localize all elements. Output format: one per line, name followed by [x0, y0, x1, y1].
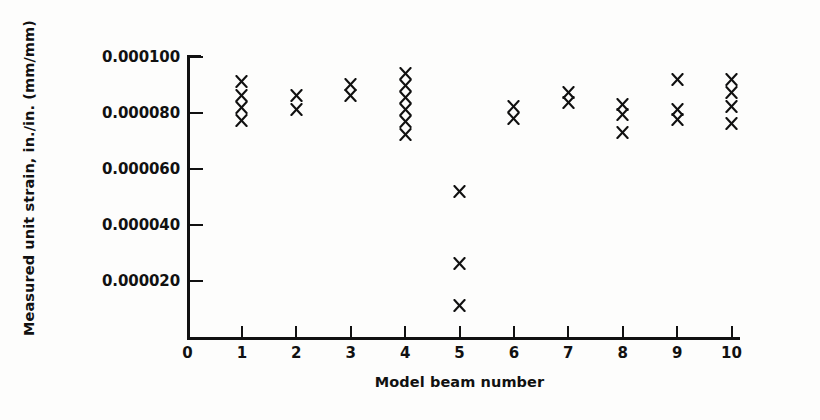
data-point-x-marker — [344, 89, 357, 102]
plot-area: 0.0000200.0000400.0000600.0000800.000100… — [0, 0, 820, 420]
data-point-x-marker — [671, 103, 684, 116]
y-tick — [190, 280, 203, 282]
x-tick — [622, 326, 624, 338]
data-point-x-marker — [616, 108, 629, 121]
data-point-x-marker — [671, 73, 684, 86]
x-tick — [459, 326, 461, 338]
data-point-x-marker — [344, 78, 357, 91]
data-point-x-marker — [725, 117, 738, 130]
y-tick — [190, 56, 203, 58]
x-tick-label: 1 — [222, 344, 262, 362]
x-tick-label: 4 — [385, 344, 425, 362]
data-point-x-marker — [453, 299, 466, 312]
x-tick — [513, 326, 515, 338]
y-tick-label: 0.000040 — [58, 216, 180, 234]
data-point-x-marker — [399, 67, 412, 80]
data-point-x-marker — [616, 126, 629, 139]
x-axis-title: Model beam number — [187, 374, 732, 390]
x-tick-label: 8 — [603, 344, 643, 362]
data-point-x-marker — [507, 100, 520, 113]
y-tick-label-text: 0.000080 — [60, 104, 180, 122]
data-point-x-marker — [399, 91, 412, 104]
data-point-x-marker — [453, 257, 466, 270]
strain-scatter-figure: Measured unit strain, in./in. (mm/mm) 0.… — [0, 0, 820, 420]
data-point-x-marker — [290, 103, 303, 116]
y-tick-label: 0.000060 — [58, 160, 180, 178]
x-tick-label: 5 — [440, 344, 480, 362]
x-tick — [241, 326, 243, 338]
x-tick-label: 2 — [276, 344, 316, 362]
data-point-x-marker — [399, 103, 412, 116]
y-tick — [190, 168, 203, 170]
x-tick — [350, 326, 352, 338]
x-tick-label: 10 — [712, 344, 752, 362]
y-tick-label-text: 0.000060 — [60, 160, 180, 178]
data-point-x-marker — [235, 114, 248, 127]
data-point-x-marker — [507, 112, 520, 125]
data-point-x-marker — [290, 89, 303, 102]
data-point-x-marker — [725, 86, 738, 99]
data-point-x-marker — [399, 115, 412, 128]
y-tick-label: 0.000100 — [58, 48, 180, 66]
y-tick-label-text: 0.000020 — [60, 272, 180, 290]
x-tick — [731, 326, 733, 338]
x-tick-label: 6 — [494, 344, 534, 362]
y-tick — [190, 112, 203, 114]
data-point-x-marker — [671, 113, 684, 126]
x-tick — [567, 326, 569, 338]
y-tick — [190, 224, 203, 226]
data-point-x-marker — [725, 73, 738, 86]
x-tick-label: 0 — [168, 344, 208, 362]
x-tick — [676, 326, 678, 338]
data-point-x-marker — [616, 98, 629, 111]
y-tick-label: 0.000080 — [58, 104, 180, 122]
data-point-x-marker — [235, 89, 248, 102]
data-point-x-marker — [562, 96, 575, 109]
data-point-x-marker — [562, 86, 575, 99]
y-tick-label: 0.000020 — [58, 272, 180, 290]
data-point-x-marker — [235, 101, 248, 114]
data-point-x-marker — [399, 79, 412, 92]
data-point-x-marker — [235, 75, 248, 88]
x-tick-label: 7 — [548, 344, 588, 362]
x-tick — [295, 326, 297, 338]
x-tick-label: 9 — [657, 344, 697, 362]
y-tick-label-text: 0.000040 — [60, 216, 180, 234]
x-axis-line — [187, 337, 740, 340]
x-tick-label: 3 — [331, 344, 371, 362]
x-tick — [404, 326, 406, 338]
y-axis-line — [187, 55, 190, 340]
data-point-x-marker — [453, 185, 466, 198]
data-point-x-marker — [399, 128, 412, 141]
y-tick-label-text: 0.000100 — [60, 48, 180, 66]
data-point-x-marker — [725, 100, 738, 113]
